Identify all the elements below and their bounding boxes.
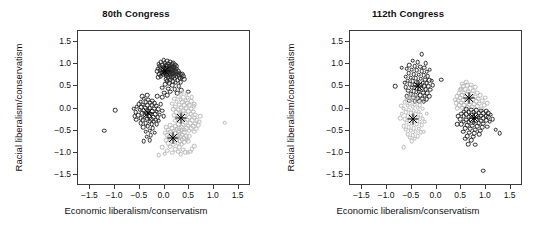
data-point [198,114,203,119]
data-point [485,124,490,129]
y-tick-label: −1.0 [317,147,343,157]
data-point [439,77,444,82]
data-point [132,106,137,111]
data-point [192,144,197,149]
data-point [466,142,471,147]
data-point [179,152,184,157]
panel-112th-congress: 112th Congress Racial liberalism/conserv… [272,0,544,231]
points-layer [350,31,521,184]
data-point [170,150,175,155]
x-tick [164,185,165,189]
data-point [160,145,165,150]
plot-area [349,30,522,185]
data-point [419,52,424,57]
data-point [409,139,414,144]
x-tick [436,185,437,189]
data-point [184,92,189,97]
data-point [155,94,160,99]
panel-title: 112th Congress [272,8,544,19]
data-point [182,77,187,82]
x-tick [460,185,461,189]
data-point [453,97,458,102]
x-tick [114,185,115,189]
data-point [187,134,192,139]
panel-80th-congress: 80th Congress Racial liberalism/conserva… [0,0,272,231]
cluster-centroid-asterisk-icon [468,111,481,124]
data-point [473,143,478,148]
cluster-centroid-asterisk-icon [174,112,187,125]
y-axis-title: Racial liberalism/conservatism [284,30,298,185]
x-tick [386,185,387,189]
data-point [456,114,461,119]
y-tick-label: 0.0 [317,103,343,113]
data-point [197,119,202,124]
congress-scatter-figure: 80th Congress Racial liberalism/conserva… [0,0,545,231]
y-tick-label: 0.5 [317,80,343,90]
x-tick [411,185,412,189]
x-axis-title: Economic liberalism/conservatism [0,205,272,216]
data-point [477,132,482,137]
data-point [156,153,161,158]
cluster-centroid-asterisk-icon [411,79,424,92]
data-point [485,101,490,106]
y-tick-label: 1.5 [317,36,343,46]
x-tick [188,185,189,189]
points-layer [78,31,249,184]
data-point [180,90,185,95]
data-point [189,95,194,100]
data-point [192,129,197,134]
data-point [102,128,107,133]
data-point [427,67,432,72]
cluster-centroid-asterisk-icon [463,91,476,104]
plot-area [77,30,250,185]
data-point [402,145,407,150]
data-point [143,129,148,134]
data-point [400,65,405,70]
data-point [410,58,415,63]
data-point [158,102,163,107]
x-tick-label: 1.5 [221,190,255,200]
y-tick-label: −0.5 [317,125,343,135]
cluster-centroid-asterisk-icon [407,112,420,125]
x-tick [139,185,140,189]
x-tick [510,185,511,189]
data-point [491,117,496,122]
panel-title: 80th Congress [0,8,272,19]
data-point [424,112,429,117]
x-tick [89,185,90,189]
data-point [162,151,167,156]
y-axis-title: Racial liberalism/conservatism [12,30,26,185]
data-point [161,114,166,119]
data-point [147,138,152,143]
x-tick [485,185,486,189]
data-point [160,95,165,100]
data-point [463,136,468,141]
data-point [192,102,197,107]
y-tick-label: 0.5 [45,80,71,90]
data-point [186,139,191,144]
y-tick-label: −0.5 [45,125,71,135]
data-point [399,104,404,109]
y-tick-label: 1.0 [45,58,71,68]
data-point [152,131,157,136]
cluster-centroid-asterisk-icon [141,107,154,120]
data-point [165,93,170,98]
data-point [398,116,403,121]
data-point [420,106,425,111]
data-point [145,93,150,98]
data-point [497,131,502,136]
data-point [481,168,486,173]
data-point [455,106,460,111]
y-tick-label: 1.0 [317,58,343,68]
data-point [113,108,118,113]
data-point [459,86,464,91]
y-tick-label: −1.5 [317,169,343,179]
y-tick-label: −1.5 [45,169,71,179]
x-tick-label: 1.5 [493,190,527,200]
data-point [223,120,228,125]
data-point [160,108,165,113]
y-axis-title-text: Racial liberalism/conservatism [286,44,297,172]
y-tick-label: −1.0 [45,147,71,157]
data-point [187,128,192,133]
data-point [393,84,398,89]
